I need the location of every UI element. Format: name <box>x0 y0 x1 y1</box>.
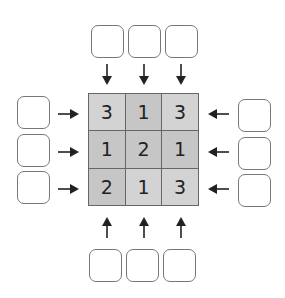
clue-box-right-2[interactable] <box>238 137 271 170</box>
clue-box-left-1[interactable] <box>17 96 50 129</box>
clue-box-bottom-3[interactable] <box>163 249 196 282</box>
clue-box-right-3[interactable] <box>238 174 271 207</box>
grid-cell-r3c1[interactable]: 2 <box>89 169 125 205</box>
arrow-up-icon <box>101 216 113 238</box>
grid-cell-r1c2[interactable]: 1 <box>126 94 162 130</box>
arrow-right-icon <box>58 108 80 120</box>
clue-box-right-1[interactable] <box>238 99 271 132</box>
clue-box-top-2[interactable] <box>128 25 161 58</box>
clue-box-left-2[interactable] <box>17 134 50 167</box>
grid-cell-r1c3[interactable]: 3 <box>162 94 198 130</box>
clue-box-left-3[interactable] <box>17 171 50 204</box>
clue-box-top-3[interactable] <box>165 25 198 58</box>
grid-cell-r1c1[interactable]: 3 <box>89 94 125 130</box>
arrow-right-icon <box>58 146 80 158</box>
grid-cell-r3c3[interactable]: 3 <box>162 169 198 205</box>
arrow-right-icon <box>58 183 80 195</box>
arrow-up-icon <box>138 216 150 238</box>
arrow-left-icon <box>207 146 229 158</box>
arrow-left-icon <box>207 183 229 195</box>
grid-cell-r2c2[interactable]: 2 <box>126 131 162 167</box>
arrow-left-icon <box>207 108 229 120</box>
clue-box-top-1[interactable] <box>91 25 124 58</box>
arrow-down-icon <box>175 64 187 86</box>
grid-cell-r2c1[interactable]: 1 <box>89 131 125 167</box>
clue-box-bottom-1[interactable] <box>89 249 122 282</box>
clue-box-bottom-2[interactable] <box>126 249 159 282</box>
arrow-up-icon <box>175 216 187 238</box>
puzzle-grid: 3 1 3 1 2 1 2 1 3 <box>88 93 199 206</box>
arrow-down-icon <box>138 64 150 86</box>
grid-cell-r3c2[interactable]: 1 <box>126 169 162 205</box>
grid-cell-r2c3[interactable]: 1 <box>162 131 198 167</box>
arrow-down-icon <box>101 64 113 86</box>
